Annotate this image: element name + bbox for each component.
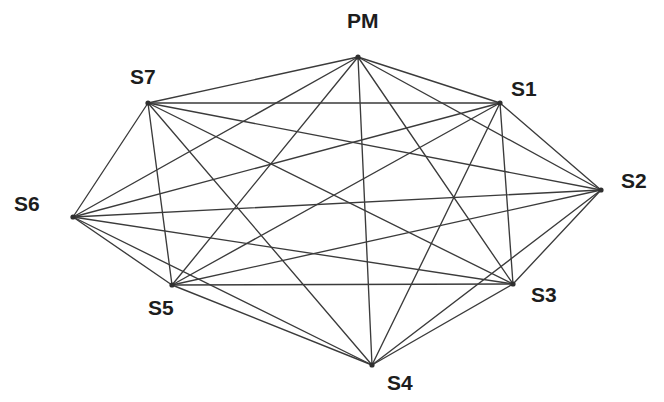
node-s6	[70, 214, 75, 219]
graph-canvas	[0, 0, 664, 402]
edge-s3-s6	[73, 217, 513, 284]
edge-s5-s6	[73, 217, 172, 285]
node-s4	[369, 362, 374, 367]
node-s7	[145, 100, 150, 105]
node-s3	[510, 281, 515, 286]
node-s2	[598, 187, 603, 192]
node-s5	[169, 282, 174, 287]
node-label-s7: S7	[130, 66, 156, 87]
complete-graph-diagram: PMS1S2S3S4S5S6S7	[0, 0, 664, 402]
edge-s2-s4	[372, 190, 601, 365]
nodes-group	[70, 54, 603, 367]
edge-s2-s7	[148, 103, 601, 190]
edge-s2-s3	[513, 190, 601, 284]
node-label-s1: S1	[511, 78, 537, 99]
node-pm	[355, 54, 360, 59]
edge-s2-s5	[172, 190, 601, 285]
edge-s1-s2	[500, 103, 601, 190]
edge-s5-s7	[148, 103, 172, 285]
node-label-s3: S3	[531, 284, 557, 305]
node-label-s6: S6	[14, 193, 40, 214]
node-label-s5: S5	[148, 297, 174, 318]
edge-s3-s5	[172, 284, 513, 285]
edge-pm-s2	[358, 57, 601, 190]
edge-s1-s3	[500, 103, 513, 284]
node-label-s2: S2	[621, 170, 647, 191]
edge-pm-s3	[358, 57, 513, 284]
node-s1	[497, 100, 502, 105]
edge-s4-s5	[172, 285, 372, 365]
edge-s1-s4	[372, 103, 500, 365]
edge-s3-s4	[372, 284, 513, 365]
node-label-s4: S4	[387, 372, 413, 393]
node-label-pm: PM	[347, 10, 379, 31]
